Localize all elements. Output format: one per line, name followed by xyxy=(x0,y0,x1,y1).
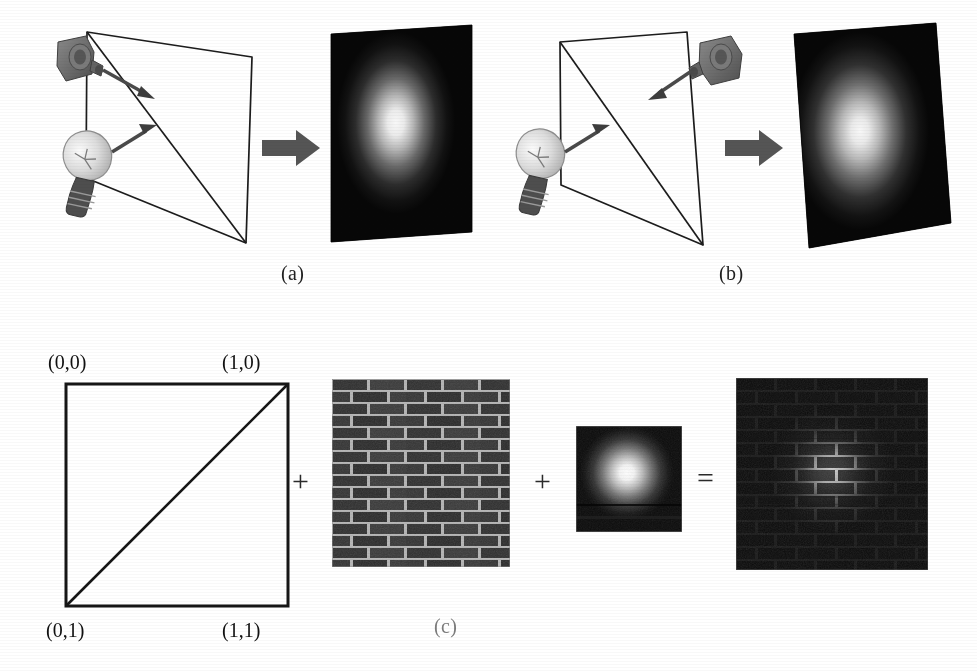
quad-wireframe-b xyxy=(560,32,703,245)
view-direction-arrow-a xyxy=(103,70,155,99)
uv-label-bottom-right: (1,1) xyxy=(222,619,260,642)
panel-a-caption: (a) xyxy=(281,262,304,285)
lightbulb-icon xyxy=(489,120,586,220)
light-direction-arrow-b xyxy=(565,124,610,152)
panel-b: (b) xyxy=(487,0,977,310)
uv-label-bottom-left: (0,1) xyxy=(46,619,84,642)
quad-outline-b xyxy=(560,32,703,245)
lightbulb-icon xyxy=(36,122,133,222)
brick-wall-texture xyxy=(332,379,510,567)
uv-parameter-square xyxy=(60,378,300,618)
lit-quad-render-a xyxy=(331,25,472,242)
panel-b-caption: (b) xyxy=(719,262,744,285)
plus-operator-1: + xyxy=(292,466,309,496)
figure-canvas: (a) xyxy=(0,0,977,671)
light-direction-arrow-a xyxy=(112,124,157,152)
uv-label-top-left: (0,0) xyxy=(48,351,86,374)
panel-a: (a) xyxy=(0,0,490,310)
equals-operator: = xyxy=(697,463,714,493)
quad-wireframe-a xyxy=(86,32,252,243)
lit-quad-render-b xyxy=(794,23,951,248)
modulated-result-texture xyxy=(736,378,928,570)
lightmap-texture xyxy=(576,426,682,532)
view-direction-arrow-b xyxy=(648,70,693,100)
uv-square-diagonal xyxy=(66,384,288,606)
uv-label-top-right: (1,0) xyxy=(222,351,260,374)
panel-a-graphics xyxy=(0,0,490,310)
block-arrow-right-icon-b xyxy=(725,130,783,166)
plus-operator-2: + xyxy=(534,466,551,496)
panel-c: (0,0) (1,0) (0,1) (1,1) + xyxy=(0,330,977,671)
block-arrow-right-icon-a xyxy=(262,130,320,166)
camera-icon xyxy=(689,36,742,85)
panel-c-caption: (c) xyxy=(434,615,457,638)
